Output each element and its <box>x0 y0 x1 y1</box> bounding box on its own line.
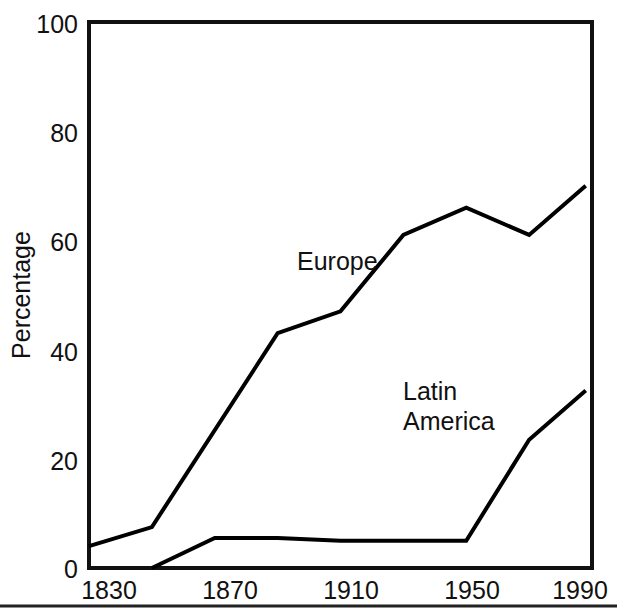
x-tick-label-1990: 1990 <box>552 576 608 604</box>
x-tick-label-1870: 1870 <box>202 576 258 604</box>
y-tick-label-80: 80 <box>50 119 78 147</box>
y-tick-label-20: 20 <box>50 447 78 475</box>
chart-figure: 100 80 60 40 20 0 Percentage 1830 1870 1… <box>0 0 617 614</box>
y-tick-label-100: 100 <box>36 10 78 38</box>
series-annotation-europe: Europe <box>297 247 378 275</box>
series-annotation-america: America <box>403 407 495 435</box>
series-line-latin-america <box>152 391 586 568</box>
x-tick-label-1950: 1950 <box>444 576 500 604</box>
x-tick-label-1910: 1910 <box>323 576 379 604</box>
y-tick-label-60: 60 <box>50 228 78 256</box>
y-tick-label-0: 0 <box>64 555 78 583</box>
plot-frame <box>89 22 592 568</box>
series-annotation-latin: Latin <box>403 377 457 405</box>
series-line-europe <box>89 186 586 546</box>
chart-canvas: 100 80 60 40 20 0 Percentage 1830 1870 1… <box>0 0 617 614</box>
y-axis-title: Percentage <box>7 231 35 359</box>
y-tick-label-40: 40 <box>50 338 78 366</box>
x-tick-label-1830: 1830 <box>81 576 137 604</box>
